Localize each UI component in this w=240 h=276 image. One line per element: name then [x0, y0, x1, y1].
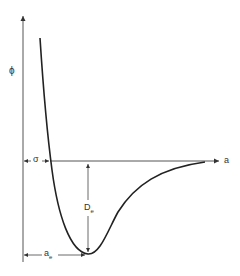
potential-diagram — [0, 0, 240, 276]
depth-label: De — [84, 203, 94, 214]
potential-curve — [40, 38, 205, 254]
depth-label-sub: e — [91, 208, 94, 214]
equilibrium-label: ae — [44, 249, 52, 260]
equilibrium-label-sub: e — [49, 254, 52, 260]
x-axis-label: a — [224, 156, 229, 165]
y-axis-label: ϕ — [9, 66, 15, 76]
sigma-label: σ — [33, 155, 39, 164]
